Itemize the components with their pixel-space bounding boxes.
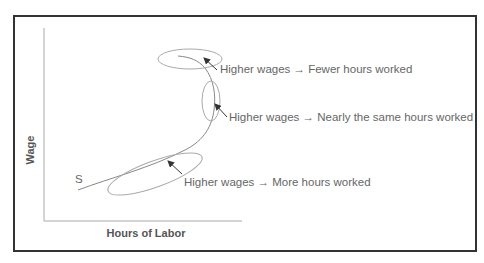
annotation-more-hours: Higher wages → More hours worked <box>184 176 371 188</box>
y-axis-label: Wage <box>24 136 36 165</box>
supply-curve-label: S <box>75 173 83 185</box>
arrow-middle-icon <box>215 104 227 117</box>
arrow-bottom-icon <box>168 161 182 174</box>
annotation-fewer-hours: Higher wages → Fewer hours worked <box>220 63 412 75</box>
ellipse-middle-region <box>202 81 220 121</box>
x-axis-label: Hours of Labor <box>107 227 187 239</box>
ellipse-bottom-region <box>104 145 207 204</box>
annotation-same-hours: Higher wages → Nearly the same hours wor… <box>229 111 473 123</box>
supply-curve <box>78 56 215 190</box>
labor-supply-diagram: Wage Hours of Labor S Higher wages → Few… <box>0 0 484 263</box>
